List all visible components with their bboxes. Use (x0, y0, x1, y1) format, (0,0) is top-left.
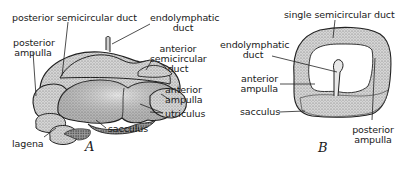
panel-b-drawing (272, 20, 391, 120)
label-anterior-semicircular-duct: anterior semicircular duct (150, 44, 206, 74)
panel-letter-b: B (318, 140, 328, 155)
label-endolymphatic-duct-a: endolymphatic duct (150, 13, 216, 33)
label-posterior-ampulla-a: posterior ampulla (13, 38, 53, 58)
label-lagena: lagena (12, 139, 44, 149)
label-line: duct (150, 64, 206, 74)
label-line: duct (220, 50, 286, 60)
label-sacculus-b: sacculus (240, 107, 280, 117)
label-line: duct (150, 23, 216, 33)
label-line: ampulla (352, 135, 394, 145)
label-endolymphatic-duct-b: endolymphatic duct (220, 40, 286, 60)
label-single-semicircular-duct: single semicircular duct (284, 10, 395, 20)
label-anterior-ampulla-b: anterior ampulla (238, 74, 278, 94)
panel-letter-a: A (85, 139, 94, 154)
label-line: ampulla (165, 95, 203, 105)
figure: posterior semicircular duct posterior am… (0, 0, 406, 169)
label-line: ampulla (13, 48, 53, 58)
label-line: ampulla (238, 84, 278, 94)
label-sacculus-a: sacculus (108, 124, 148, 134)
label-posterior-semicircular-duct: posterior semicircular duct (12, 13, 137, 23)
label-posterior-ampulla-b: posterior ampulla (352, 125, 394, 145)
label-anterior-ampulla-a: anterior ampulla (165, 85, 203, 105)
label-utriculus: utriculus (165, 109, 205, 119)
